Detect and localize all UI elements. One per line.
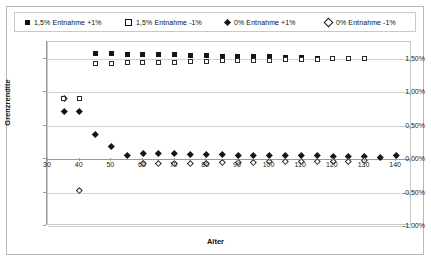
y-tick-label: 1,00% xyxy=(405,88,425,95)
y-axis-line xyxy=(46,41,47,225)
data-point xyxy=(250,152,256,158)
y-tick-label: -0,50% xyxy=(403,188,425,195)
legend-item-2[interactable]: 0% Entnahme +1% xyxy=(215,19,315,26)
data-point xyxy=(362,56,367,61)
x-tick xyxy=(300,158,301,161)
data-point xyxy=(251,58,256,63)
data-point xyxy=(77,96,82,101)
legend-label: 0% Entnahme -1% xyxy=(336,19,396,26)
data-point xyxy=(171,150,177,156)
legend-item-3[interactable]: 0% Entnahme -1% xyxy=(315,19,415,26)
x-tick xyxy=(142,158,143,161)
x-tick-label: 70 xyxy=(170,161,178,168)
x-tick-label: 140 xyxy=(389,161,401,168)
gridline-y xyxy=(48,193,410,194)
data-point xyxy=(61,108,67,114)
data-point xyxy=(187,151,193,157)
x-tick-label: 120 xyxy=(326,161,338,168)
data-point xyxy=(188,59,193,64)
data-point xyxy=(140,60,145,65)
x-tick xyxy=(47,158,48,161)
x-tick xyxy=(174,158,175,161)
data-point xyxy=(219,151,225,157)
data-point xyxy=(172,52,177,57)
legend-label: 1,5% Entnahme +1% xyxy=(34,19,102,26)
data-point xyxy=(92,131,98,137)
data-point xyxy=(330,56,335,61)
data-point xyxy=(235,58,240,63)
x-tick xyxy=(110,158,111,161)
data-point xyxy=(156,52,161,57)
data-point xyxy=(267,58,272,63)
data-point xyxy=(76,108,82,114)
x-tick-label: 110 xyxy=(295,161,306,168)
legend-item-0[interactable]: 1,5% Entnahme +1% xyxy=(15,19,115,26)
data-point xyxy=(124,152,130,158)
x-tick xyxy=(205,158,206,161)
data-point xyxy=(109,51,114,56)
x-tick-label: 80 xyxy=(201,161,209,168)
data-point xyxy=(156,161,162,167)
data-point xyxy=(172,60,177,65)
legend-marker-di-filled-icon xyxy=(224,18,231,25)
x-tick-label: 100 xyxy=(263,161,275,168)
legend-marker-sq-filled-icon xyxy=(25,20,30,25)
data-point xyxy=(315,57,320,62)
x-tick-label: 90 xyxy=(233,161,241,168)
gridline-y xyxy=(48,126,410,127)
x-tick xyxy=(79,158,80,161)
data-point xyxy=(93,61,98,66)
x-tick-label: 30 xyxy=(43,161,51,168)
legend-item-1[interactable]: 1,5% Entnahme -1% xyxy=(115,19,215,26)
x-tick-label: 50 xyxy=(106,161,114,168)
data-point xyxy=(219,159,225,165)
y-tick xyxy=(43,225,46,226)
data-point xyxy=(204,53,209,58)
data-point xyxy=(346,56,351,61)
data-point xyxy=(203,151,209,157)
y-tick-label: -1,00% xyxy=(403,222,425,229)
data-point xyxy=(156,150,162,156)
x-axis-labels xyxy=(47,0,411,12)
y-tick-label: 1,50% xyxy=(405,54,425,61)
data-point xyxy=(125,52,130,57)
legend-label: 0% Entnahme +1% xyxy=(234,19,296,26)
data-point xyxy=(140,150,146,156)
data-point xyxy=(156,60,161,65)
legend-marker-sq-hollow-icon xyxy=(125,19,132,26)
x-tick xyxy=(269,158,270,161)
x-axis-title: Alter xyxy=(0,237,431,246)
y-axis-labels xyxy=(0,41,44,225)
legend-marker-di-hollow-icon xyxy=(324,17,334,27)
plot-area xyxy=(47,41,411,225)
data-point xyxy=(108,143,114,149)
data-point xyxy=(204,59,209,64)
data-point xyxy=(283,57,288,62)
x-tick xyxy=(395,158,396,161)
chart-legend: 1,5% Entnahme +1%1,5% Entnahme -1%0% Ent… xyxy=(14,12,416,32)
data-point xyxy=(93,51,98,56)
data-point xyxy=(235,152,241,158)
gridline-y xyxy=(48,92,410,93)
data-point xyxy=(188,53,193,58)
x-tick-label: 60 xyxy=(138,161,146,168)
data-point xyxy=(282,159,288,165)
gridline-y xyxy=(48,226,410,227)
x-tick-label: 130 xyxy=(358,161,370,168)
data-point xyxy=(61,96,66,101)
data-point xyxy=(125,60,130,65)
gridline-y xyxy=(48,159,410,160)
x-tick xyxy=(237,158,238,161)
data-point xyxy=(250,159,256,165)
plot-canvas xyxy=(48,42,410,224)
data-point xyxy=(187,160,193,166)
x-tick-label: 40 xyxy=(75,161,83,168)
y-tick-label: 0,00% xyxy=(405,155,425,162)
data-point xyxy=(299,57,304,62)
x-tick xyxy=(332,158,333,161)
data-point xyxy=(220,58,225,63)
data-point xyxy=(393,152,399,158)
chart-screenshot: 1,5% Entnahme +1%1,5% Entnahme -1%0% Ent… xyxy=(0,0,431,262)
x-tick xyxy=(364,158,365,161)
data-point xyxy=(109,61,114,66)
